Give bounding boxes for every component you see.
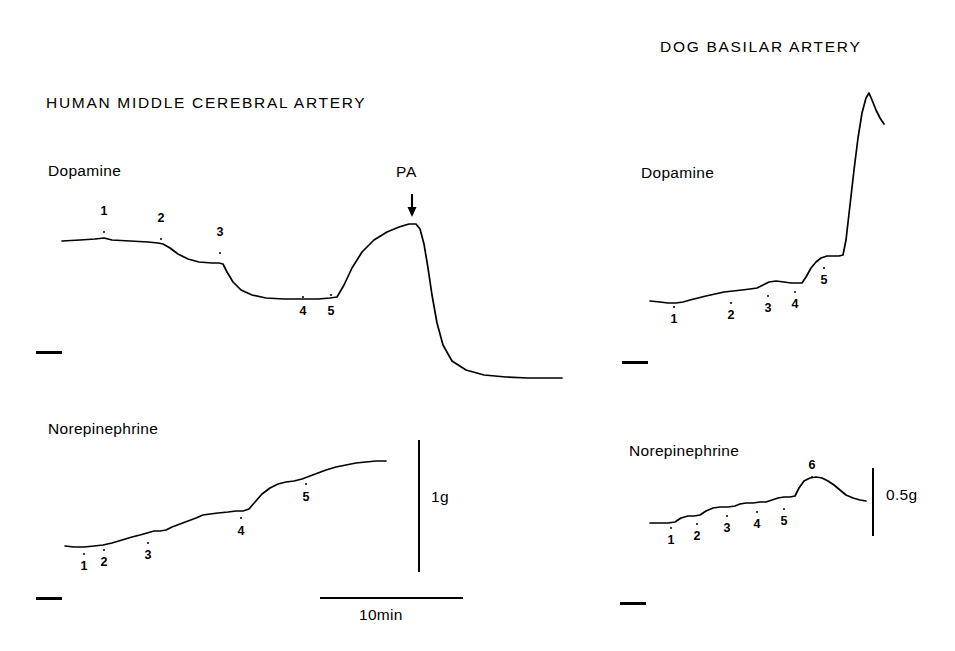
trace-dog-dopamine (650, 93, 884, 303)
dose-number: 1 (667, 312, 681, 326)
dose-number: 3 (720, 521, 734, 535)
dose-number: 6 (805, 458, 819, 472)
baseline-tick-dog-dopamine (622, 361, 648, 364)
dose-number: 2 (724, 308, 738, 322)
dose-number: 5 (817, 273, 831, 287)
dose-number: 1 (97, 204, 111, 218)
panel-title-dog: DOG BASILAR ARTERY (660, 38, 861, 56)
drug-label-dog-norepinephrine: Norepinephrine (629, 442, 739, 460)
scale-bar-vertical-half-g (872, 468, 874, 536)
figure-canvas: HUMAN MIDDLE CEREBRAL ARTERY Dopamine PA… (0, 0, 955, 651)
scale-bar-horizontal-10min (320, 597, 463, 599)
baseline-tick-dog-norepinephrine (620, 602, 646, 605)
dose-number: 4 (788, 297, 802, 311)
baseline-tick-human-norepinephrine (36, 597, 62, 600)
dose-number: 4 (234, 524, 248, 538)
dose-number: 5 (777, 514, 791, 528)
dose-number: 4 (750, 517, 764, 531)
dose-number: 3 (141, 548, 155, 562)
dose-number: 1 (77, 559, 91, 573)
dose-number: 2 (97, 555, 111, 569)
panel-title-human: HUMAN MIDDLE CEREBRAL ARTERY (46, 94, 366, 112)
scale-label-0.5g: 0.5g (886, 486, 917, 504)
pa-label: PA (396, 163, 417, 181)
dose-number: 3 (213, 225, 227, 239)
dose-number: 5 (299, 490, 313, 504)
drug-label-dog-dopamine: Dopamine (641, 164, 714, 182)
dose-number: 1 (664, 533, 678, 547)
dose-number: 2 (690, 529, 704, 543)
drug-label-human-dopamine: Dopamine (48, 162, 121, 180)
dose-number: 3 (761, 301, 775, 315)
trace-human-dopamine (62, 224, 562, 378)
drug-label-human-norepinephrine: Norepinephrine (48, 420, 158, 438)
dose-number: 4 (296, 304, 310, 318)
scale-label-1g: 1g (431, 488, 449, 506)
scale-label-10min: 10min (359, 606, 403, 624)
dose-number: 5 (324, 304, 338, 318)
scale-bar-vertical-1g (418, 440, 420, 572)
dose-number: 2 (154, 211, 168, 225)
trace-human-norepinephrine (65, 461, 386, 547)
pa-arrow-icon (408, 194, 417, 217)
baseline-tick-human-dopamine (36, 351, 62, 354)
